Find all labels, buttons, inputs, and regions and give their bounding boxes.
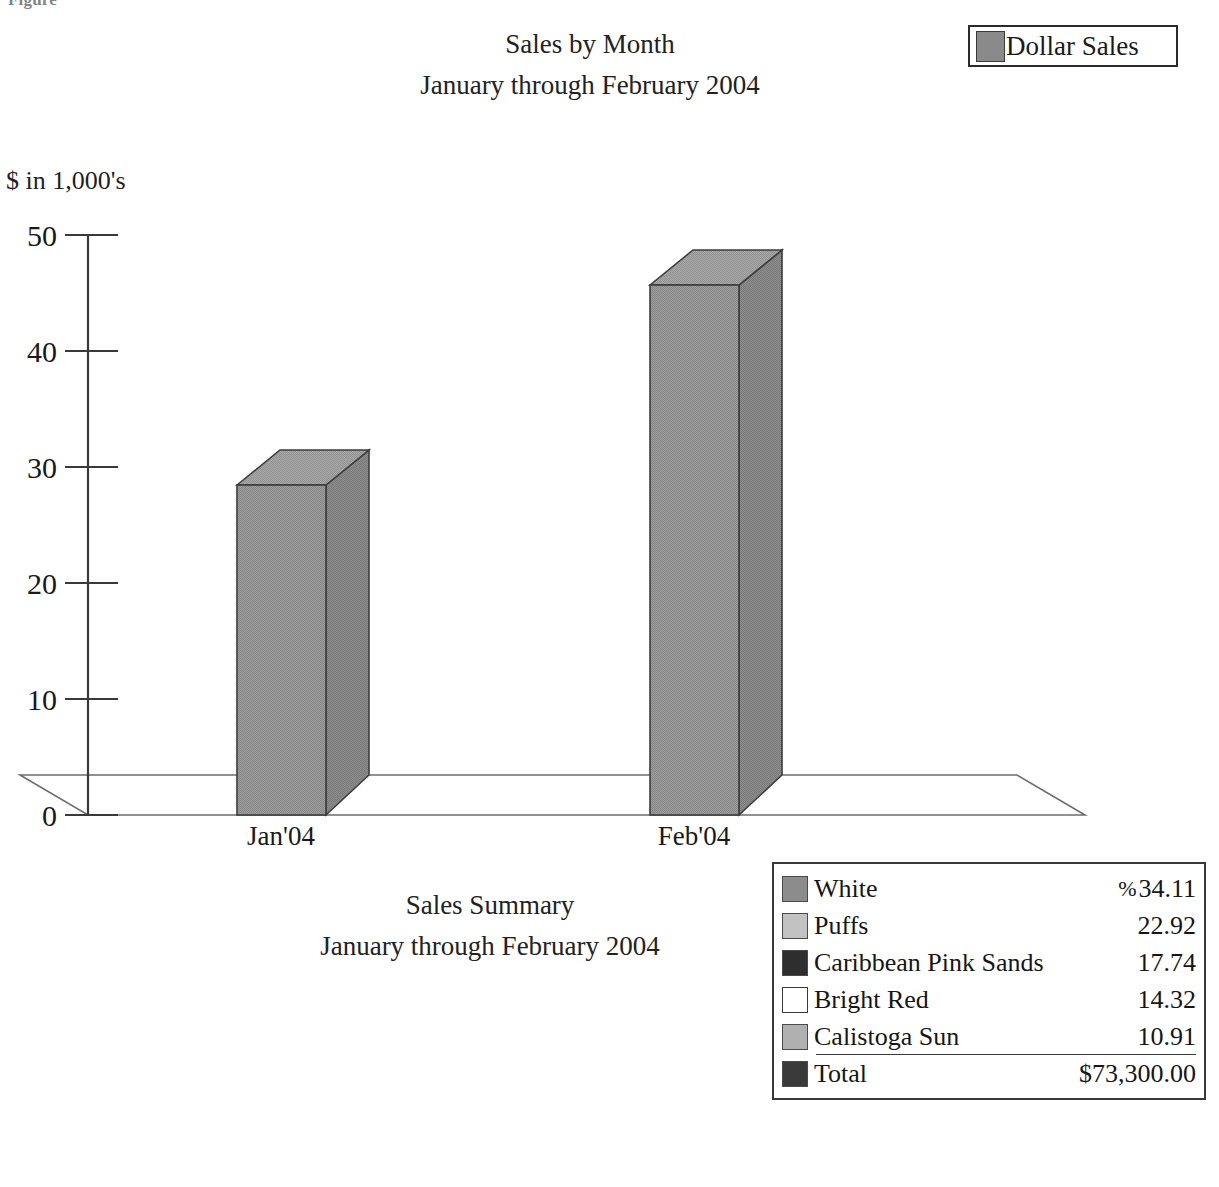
breakdown-row-label: Puffs <box>814 911 868 941</box>
plot-area: 50 40 30 20 10 0 <box>0 200 1219 860</box>
x-tick-label-jan: Jan'04 <box>247 821 315 851</box>
chart-title-block: Sales by Month January through February … <box>240 24 940 106</box>
y-tick-10: 10 <box>27 683 57 716</box>
breakdown-legend-table: White%34.11Puffs22.92Caribbean Pink Sand… <box>772 862 1206 1100</box>
breakdown-row[interactable]: Caribbean Pink Sands17.74 <box>782 944 1196 981</box>
x-tick-label-feb: Feb'04 <box>658 821 731 851</box>
y-tick-40: 40 <box>27 335 57 368</box>
series-legend-label: Dollar Sales <box>1006 31 1139 62</box>
breakdown-swatch-icon <box>782 876 808 902</box>
figure-caption-clipped: Figure <box>8 0 57 10</box>
percent-sign: % <box>1118 876 1136 902</box>
y-tick-20: 20 <box>27 567 57 600</box>
breakdown-row-label: White <box>814 874 878 904</box>
chart-page: Figure Sales by Month January through Fe… <box>0 0 1219 1187</box>
breakdown-row-value: 10.91 <box>1138 1022 1197 1052</box>
y-axis-ticks: 50 40 30 20 10 0 <box>27 219 118 832</box>
floor-plane <box>20 775 1085 815</box>
breakdown-row-value: 34.11 <box>1138 874 1196 904</box>
chart-subtitle: January through February 2004 <box>240 65 940 106</box>
breakdown-swatch-icon <box>782 913 808 939</box>
breakdown-swatch-icon <box>782 987 808 1013</box>
breakdown-row[interactable]: Bright Red14.32 <box>782 981 1196 1018</box>
breakdown-row[interactable]: White%34.11 <box>782 870 1196 907</box>
breakdown-swatch-icon <box>782 950 808 976</box>
y-tick-30: 30 <box>27 451 57 484</box>
chart-title: Sales by Month <box>240 24 940 65</box>
breakdown-row-value: 17.74 <box>1138 948 1197 978</box>
y-tick-0: 0 <box>42 799 57 832</box>
y-axis-unit-label: $ in 1,000's <box>6 166 126 196</box>
breakdown-row-label: Caribbean Pink Sands <box>814 948 1044 978</box>
series-legend-box[interactable]: Dollar Sales <box>968 25 1178 67</box>
bar-jan04[interactable] <box>237 450 369 815</box>
chart-svg: 50 40 30 20 10 0 <box>0 200 1219 860</box>
breakdown-row-label: Bright Red <box>814 985 929 1015</box>
breakdown-row[interactable]: Total$73,300.00 <box>782 1055 1196 1092</box>
summary-subtitle: January through February 2004 <box>140 926 840 967</box>
breakdown-swatch-icon <box>782 1061 808 1087</box>
breakdown-swatch-icon <box>782 1024 808 1050</box>
breakdown-row[interactable]: Puffs22.92 <box>782 907 1196 944</box>
dollar-sales-swatch-icon <box>976 31 1005 62</box>
y-tick-50: 50 <box>27 219 57 252</box>
bar-feb04[interactable] <box>650 250 782 815</box>
breakdown-row-label: Total <box>814 1059 867 1089</box>
breakdown-row[interactable]: Calistoga Sun10.91 <box>782 1018 1196 1055</box>
summary-title-block: Sales Summary January through February 2… <box>140 885 840 967</box>
summary-title: Sales Summary <box>140 885 840 926</box>
breakdown-row-value: $73,300.00 <box>1079 1059 1196 1089</box>
breakdown-row-value: 14.32 <box>1138 985 1197 1015</box>
breakdown-row-label: Calistoga Sun <box>814 1022 959 1052</box>
breakdown-row-value: 22.92 <box>1138 911 1197 941</box>
